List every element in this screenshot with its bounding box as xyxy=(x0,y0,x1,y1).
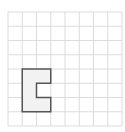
c-shaped-polygon xyxy=(22,69,51,112)
grid-diagram xyxy=(0,0,125,132)
